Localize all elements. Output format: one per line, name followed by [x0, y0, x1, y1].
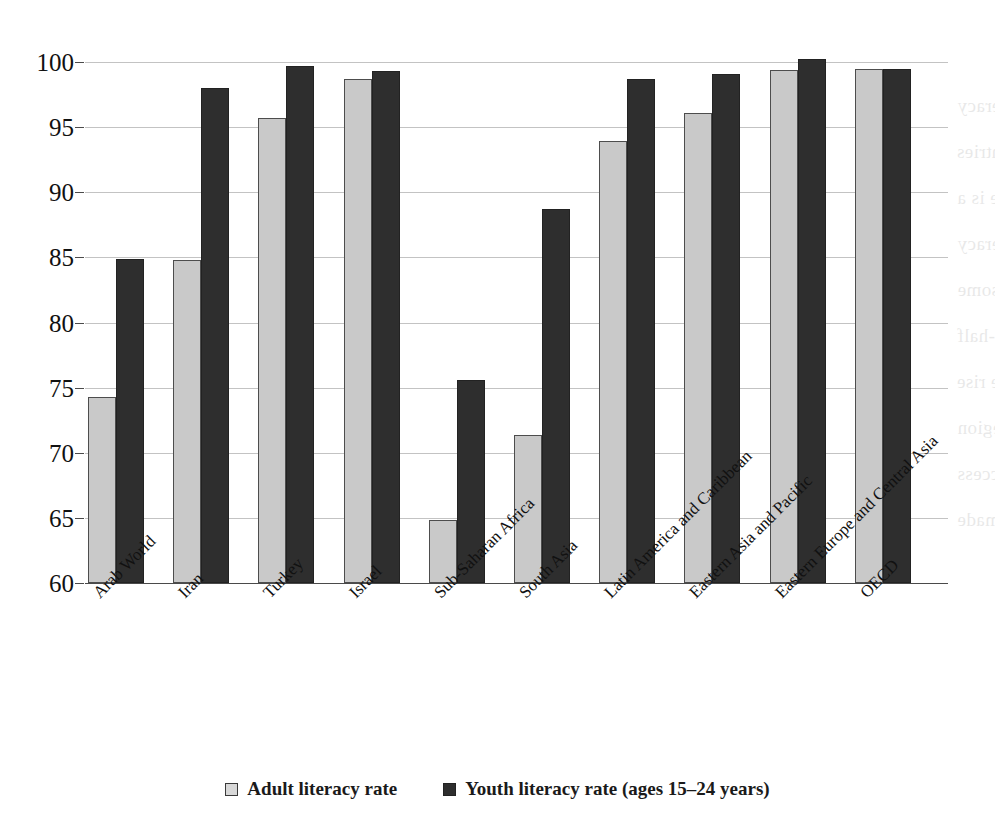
y-tick-mark-80 [75, 323, 84, 324]
y-tick-label-95: 95 [49, 115, 74, 140]
bar-youth-south-asia [542, 209, 570, 583]
y-tick-mark-100 [75, 62, 84, 63]
legend-label: Adult literacy rate [247, 778, 397, 800]
y-tick-mark-60 [75, 583, 84, 584]
y-tick-mark-90 [75, 192, 84, 193]
legend-swatch-adult-icon [225, 783, 238, 796]
bar-adult-turkey [258, 118, 286, 583]
bar-adult-arab-world [88, 397, 116, 583]
y-tick-label-60: 60 [49, 571, 74, 596]
bar-youth-latin-america-and-caribbean [627, 79, 655, 583]
y-tick-label-100: 100 [37, 50, 75, 75]
literacy-rate-bar-chart: 1009590858075706560 Arab WorldIranTurkey… [0, 0, 995, 831]
bar-youth-turkey [286, 66, 314, 583]
bar-youth-israel [372, 71, 400, 583]
y-tick-label-90: 90 [49, 180, 74, 205]
y-tick-mark-95 [75, 127, 84, 128]
legend-item-youth: Youth literacy rate (ages 15–24 years) [443, 778, 769, 800]
y-tick-mark-85 [75, 257, 84, 258]
y-tick-label-65: 65 [49, 505, 74, 530]
gridline-60 [85, 583, 948, 584]
legend-swatch-youth-icon [443, 783, 456, 796]
y-tick-label-80: 80 [49, 310, 74, 335]
chart-legend: Adult literacy rateYouth literacy rate (… [0, 778, 995, 800]
legend-label: Youth literacy rate (ages 15–24 years) [465, 778, 769, 800]
y-tick-mark-70 [75, 453, 84, 454]
bar-adult-latin-america-and-caribbean [599, 141, 627, 583]
y-tick-label-85: 85 [49, 245, 74, 270]
y-tick-label-70: 70 [49, 440, 74, 465]
bar-youth-iran [201, 88, 229, 583]
bar-youth-arab-world [116, 259, 144, 583]
bar-adult-israel [344, 79, 372, 583]
legend-item-adult: Adult literacy rate [225, 778, 397, 800]
y-tick-mark-75 [75, 388, 84, 389]
bar-youth-eastern-asia-and-pacific [712, 74, 740, 583]
bar-youth-oecd [883, 69, 911, 583]
y-tick-mark-65 [75, 518, 84, 519]
bar-youth-eastern-europe-and-central-asia [798, 59, 826, 583]
bar-adult-iran [173, 260, 201, 583]
y-tick-label-75: 75 [49, 375, 74, 400]
